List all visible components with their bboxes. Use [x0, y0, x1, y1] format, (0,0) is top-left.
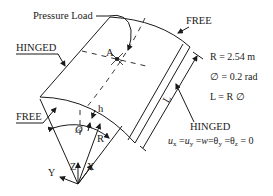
pressure-load-label: Pressure Load — [33, 10, 94, 21]
boundary-condition-equation: ux =uy =w=θy =θz = 0 — [168, 135, 254, 148]
param-radius: R = 2.54 m — [210, 51, 255, 62]
point-a: A — [106, 47, 123, 65]
shell-outline — [40, 17, 190, 143]
svg-text:FREE: FREE — [16, 111, 42, 122]
param-angle: ∅ = 0.2 rad — [210, 71, 257, 82]
svg-text:R: R — [97, 133, 104, 144]
svg-text:HINGED: HINGED — [16, 42, 57, 53]
thickness-edge — [128, 44, 183, 140]
hinged-left-annotation: HINGED — [16, 42, 65, 66]
svg-text:A: A — [106, 47, 114, 58]
free-top-annotation: FREE — [178, 15, 212, 33]
svg-text:Z: Z — [70, 161, 76, 172]
svg-text:FREE: FREE — [186, 15, 212, 26]
svg-text:Y: Y — [48, 167, 55, 178]
param-length: L = R ∅ — [210, 91, 245, 102]
coordinate-axes: Z Y X — [48, 161, 95, 184]
svg-text:L: L — [160, 94, 173, 105]
svg-text:Ø: Ø — [74, 124, 83, 135]
thickness-dimension: h — [88, 103, 104, 131]
center-lines — [80, 18, 146, 135]
svg-text:HINGED: HINGED — [190, 121, 231, 132]
shell-panel-diagram: A Pressure Load FREE HINGED FREE L HINGE… — [0, 0, 273, 196]
parameters-block: R = 2.54 m ∅ = 0.2 rad L = R ∅ — [210, 51, 257, 102]
svg-text:h: h — [98, 103, 104, 114]
svg-text:ux =uy =w=θy =θz = 0: ux =uy =w=θy =θz = 0 — [168, 135, 254, 148]
svg-text:X: X — [87, 161, 95, 172]
